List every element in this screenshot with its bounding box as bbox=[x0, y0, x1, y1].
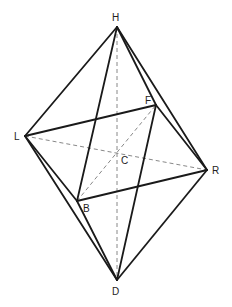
vertex-label-d: D bbox=[112, 286, 119, 297]
edge-hb bbox=[77, 27, 117, 201]
octahedron-diagram: H L F R B D C bbox=[0, 0, 232, 307]
edge-df bbox=[117, 105, 156, 280]
edge-br bbox=[77, 170, 207, 201]
vertex-label-h: H bbox=[112, 12, 119, 23]
edge-hl bbox=[25, 27, 117, 136]
hidden-edge-lr bbox=[25, 136, 207, 170]
edge-dr bbox=[117, 170, 207, 280]
vertex-label-l: L bbox=[14, 131, 20, 142]
vertex-label-r: R bbox=[212, 165, 219, 176]
edge-hr bbox=[117, 27, 207, 170]
edge-lf bbox=[25, 105, 156, 136]
vertex-label-f: F bbox=[145, 95, 151, 106]
edge-lb bbox=[25, 136, 77, 201]
edge-dl bbox=[25, 136, 117, 280]
vertex-label-c: C bbox=[121, 155, 128, 166]
vertex-label-b: B bbox=[83, 203, 90, 214]
edge-fr bbox=[156, 105, 207, 170]
edge-hf bbox=[117, 27, 156, 105]
